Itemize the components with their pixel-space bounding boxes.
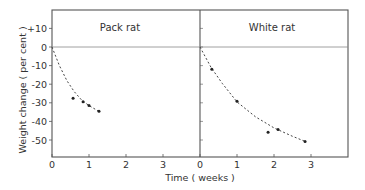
data-point xyxy=(277,128,280,131)
axis-ticks: +100-10-20-30-40-5001230123 xyxy=(27,23,314,170)
x-tick-label: 1 xyxy=(86,159,92,170)
data-series xyxy=(52,47,307,143)
x-tick-label: 3 xyxy=(308,159,314,170)
panel-title-pack-rat: Pack rat xyxy=(100,22,140,33)
data-point xyxy=(304,140,307,143)
x-tick-label: 2 xyxy=(123,159,129,170)
x-tick-label: 2 xyxy=(271,159,277,170)
data-point xyxy=(267,131,270,134)
data-point xyxy=(72,97,75,100)
y-tick-label: +10 xyxy=(27,23,47,34)
y-tick-label: -40 xyxy=(31,116,47,127)
x-axis-label: Time ( weeks ) xyxy=(164,172,235,183)
y-tick-label: -10 xyxy=(31,60,47,71)
data-point xyxy=(82,100,85,103)
x-tick-label: 0 xyxy=(49,159,55,170)
fit-curve-pack-rat xyxy=(52,47,100,112)
x-tick-label: 3 xyxy=(160,159,166,170)
data-point xyxy=(88,104,91,107)
weight-change-chart: +100-10-20-30-40-5001230123 Pack rat Whi… xyxy=(0,0,365,190)
fit-curve-white-rat xyxy=(200,47,305,142)
axis-labels: Pack rat White rat Time ( weeks ) Weight… xyxy=(17,22,295,183)
data-point xyxy=(236,100,239,103)
x-tick-label: 0 xyxy=(197,159,203,170)
y-tick-label: -30 xyxy=(31,97,47,108)
x-tick-label: 1 xyxy=(234,159,240,170)
y-tick-label: -20 xyxy=(31,79,47,90)
data-point xyxy=(210,68,213,71)
plot-frame xyxy=(52,10,348,157)
panel-title-white-rat: White rat xyxy=(249,22,295,33)
data-point xyxy=(97,110,100,113)
y-axis-label: Weight change ( per cent ) xyxy=(17,26,28,153)
y-tick-label: 0 xyxy=(41,42,47,53)
y-tick-label: -50 xyxy=(31,135,47,146)
